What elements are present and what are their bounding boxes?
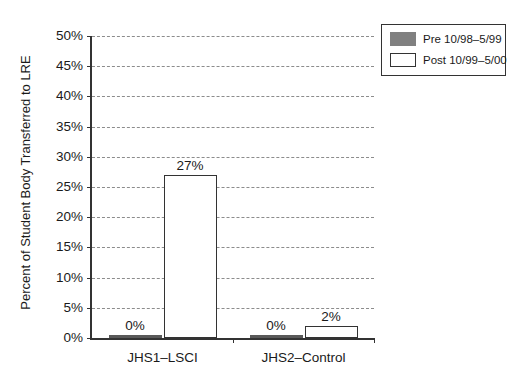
y-tick-label: 20%	[56, 210, 83, 224]
legend-item-post: Post 10/99–5/00	[390, 53, 497, 67]
gridline	[92, 247, 374, 248]
plot-area: 50%45%40%35%30%25%20%15%10%5%0% 0%27%0%2…	[90, 36, 374, 340]
y-tick-label: 35%	[56, 120, 83, 134]
bar-post: 27%	[164, 175, 217, 338]
bar-pre: 0%	[250, 335, 303, 338]
y-tick-label: 50%	[56, 29, 83, 43]
y-tick-mark	[87, 187, 92, 188]
bar-chart: Transfers to Less Restrictive Environmen…	[0, 0, 514, 379]
bar-value-label: 27%	[176, 159, 203, 173]
y-tick-mark	[87, 36, 92, 37]
y-tick-mark	[87, 96, 92, 97]
y-tick-mark	[87, 66, 92, 67]
legend-swatch-pre-icon	[390, 32, 416, 46]
y-tick-mark	[87, 278, 92, 279]
x-tick-mark	[233, 338, 234, 343]
bar-value-label: 0%	[125, 319, 145, 333]
y-tick-label: 15%	[56, 241, 83, 255]
gridline	[92, 187, 374, 188]
bar-value-label: 2%	[321, 310, 341, 324]
y-axis-title: Percent of Student Body Transferred to L…	[18, 28, 33, 338]
legend-label-pre: Pre 10/98–5/99	[423, 33, 502, 45]
bar-pre: 0%	[109, 335, 162, 338]
y-tick-mark	[87, 127, 92, 128]
y-tick-mark	[87, 247, 92, 248]
y-tick-mark	[87, 157, 92, 158]
y-tick-mark	[87, 308, 92, 309]
y-tick-label: 5%	[63, 301, 83, 315]
legend-label-post: Post 10/99–5/00	[423, 54, 507, 66]
y-tick-mark	[87, 217, 92, 218]
gridline	[92, 127, 374, 128]
x-tick-mark	[374, 338, 375, 343]
legend-item-pre: Pre 10/98–5/99	[390, 32, 497, 46]
gridline	[92, 157, 374, 158]
chart-legend: Pre 10/98–5/99 Post 10/99–5/00	[381, 24, 506, 76]
y-tick-label: 30%	[56, 150, 83, 164]
bar-value-label: 0%	[266, 319, 286, 333]
bar-post: 2%	[305, 326, 358, 338]
gridline	[92, 66, 374, 67]
gridline	[92, 36, 374, 37]
y-tick-label: 10%	[56, 271, 83, 285]
x-axis-label: JHS2–Control	[261, 350, 345, 365]
gridline	[92, 278, 374, 279]
y-tick-label: 25%	[56, 180, 83, 194]
chart-title: Transfers to Less Restrictive Environmen…	[0, 0, 514, 3]
gridline	[92, 217, 374, 218]
y-tick-mark	[87, 338, 92, 339]
y-tick-label: 0%	[63, 331, 83, 345]
gridline	[92, 96, 374, 97]
x-axis-label: JHS1–LSCI	[127, 350, 198, 365]
legend-swatch-post-icon	[390, 53, 416, 67]
y-tick-label: 45%	[56, 59, 83, 73]
y-tick-label: 40%	[56, 90, 83, 104]
